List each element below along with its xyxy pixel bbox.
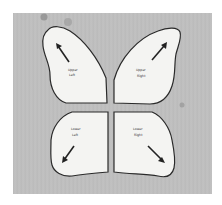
wing-lower-right: Lower Right (114, 112, 175, 177)
wing-upper-left: Upper Left (43, 27, 107, 103)
wing-label-line2: Left (69, 73, 76, 77)
stain (64, 18, 72, 26)
wing-label-line1: Lower (133, 127, 143, 131)
stain (41, 14, 48, 21)
wing-label-line1: Upper (68, 68, 78, 72)
wing-label-line1: Upper (136, 68, 146, 72)
wing-lower-left: Lower Left (51, 112, 108, 176)
wing-label-line2: Right (134, 133, 143, 137)
wing-label-line2: Right (137, 74, 146, 78)
wing-upper-right: Upper Right (114, 28, 181, 104)
butterfly-photo: Upper Left Upper Right Lower Left (13, 13, 212, 194)
wing-label-line1: Lower (71, 127, 81, 131)
stain (180, 103, 185, 108)
wing-label-line2: Left (72, 133, 79, 137)
